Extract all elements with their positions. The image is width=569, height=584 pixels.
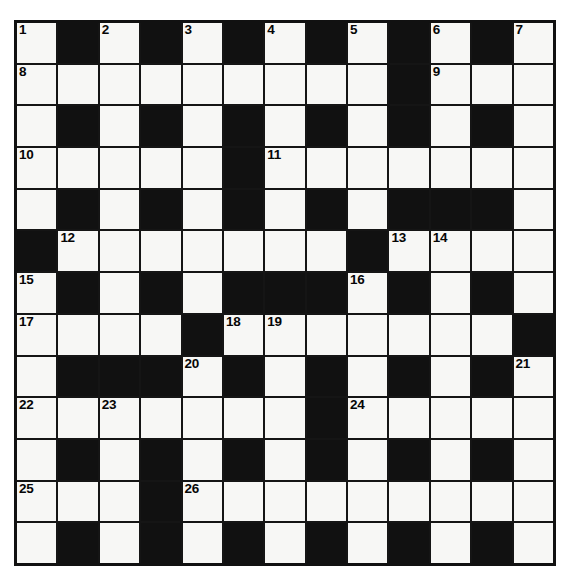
- open-cell[interactable]: 15: [17, 273, 56, 313]
- open-cell[interactable]: [100, 482, 139, 522]
- open-cell[interactable]: [389, 482, 428, 522]
- crossword-grid[interactable]: 1234567891011121314151617181920212223242…: [17, 23, 553, 563]
- open-cell[interactable]: [265, 398, 304, 438]
- open-cell[interactable]: [472, 231, 511, 271]
- open-cell[interactable]: [17, 357, 56, 397]
- open-cell[interactable]: [224, 398, 263, 438]
- open-cell[interactable]: [307, 148, 346, 188]
- open-cell[interactable]: [224, 482, 263, 522]
- open-cell[interactable]: [100, 440, 139, 480]
- open-cell[interactable]: [224, 65, 263, 105]
- open-cell[interactable]: [514, 106, 553, 146]
- open-cell[interactable]: 17: [17, 315, 56, 355]
- open-cell[interactable]: [431, 398, 470, 438]
- open-cell[interactable]: [389, 398, 428, 438]
- open-cell[interactable]: [514, 440, 553, 480]
- open-cell[interactable]: [307, 65, 346, 105]
- open-cell[interactable]: [224, 231, 263, 271]
- open-cell[interactable]: [17, 440, 56, 480]
- open-cell[interactable]: 5: [348, 23, 387, 63]
- open-cell[interactable]: 13: [389, 231, 428, 271]
- open-cell[interactable]: [100, 523, 139, 563]
- open-cell[interactable]: [472, 148, 511, 188]
- open-cell[interactable]: [431, 523, 470, 563]
- open-cell[interactable]: [183, 273, 222, 313]
- open-cell[interactable]: [472, 315, 511, 355]
- open-cell[interactable]: [141, 315, 180, 355]
- open-cell[interactable]: [17, 106, 56, 146]
- open-cell[interactable]: [100, 315, 139, 355]
- open-cell[interactable]: [265, 231, 304, 271]
- open-cell[interactable]: [431, 273, 470, 313]
- open-cell[interactable]: [431, 106, 470, 146]
- open-cell[interactable]: [348, 523, 387, 563]
- open-cell[interactable]: [183, 65, 222, 105]
- open-cell[interactable]: 25: [17, 482, 56, 522]
- open-cell[interactable]: 26: [183, 482, 222, 522]
- open-cell[interactable]: [141, 148, 180, 188]
- open-cell[interactable]: [514, 148, 553, 188]
- open-cell[interactable]: [472, 65, 511, 105]
- open-cell[interactable]: [472, 398, 511, 438]
- open-cell[interactable]: [100, 273, 139, 313]
- open-cell[interactable]: [17, 523, 56, 563]
- open-cell[interactable]: 20: [183, 357, 222, 397]
- open-cell[interactable]: 23: [100, 398, 139, 438]
- open-cell[interactable]: [307, 482, 346, 522]
- open-cell[interactable]: [389, 148, 428, 188]
- open-cell[interactable]: 2: [100, 23, 139, 63]
- open-cell[interactable]: 18: [224, 315, 263, 355]
- open-cell[interactable]: [431, 148, 470, 188]
- open-cell[interactable]: [389, 315, 428, 355]
- open-cell[interactable]: [514, 482, 553, 522]
- open-cell[interactable]: [514, 190, 553, 230]
- open-cell[interactable]: 22: [17, 398, 56, 438]
- open-cell[interactable]: [183, 190, 222, 230]
- open-cell[interactable]: [348, 148, 387, 188]
- open-cell[interactable]: [141, 398, 180, 438]
- open-cell[interactable]: 11: [265, 148, 304, 188]
- open-cell[interactable]: 19: [265, 315, 304, 355]
- open-cell[interactable]: [58, 398, 97, 438]
- open-cell[interactable]: [514, 273, 553, 313]
- open-cell[interactable]: [265, 523, 304, 563]
- open-cell[interactable]: 7: [514, 23, 553, 63]
- open-cell[interactable]: [514, 231, 553, 271]
- open-cell[interactable]: [514, 398, 553, 438]
- open-cell[interactable]: 4: [265, 23, 304, 63]
- open-cell[interactable]: [265, 440, 304, 480]
- open-cell[interactable]: 10: [17, 148, 56, 188]
- open-cell[interactable]: [348, 482, 387, 522]
- open-cell[interactable]: [141, 231, 180, 271]
- open-cell[interactable]: [183, 523, 222, 563]
- open-cell[interactable]: 9: [431, 65, 470, 105]
- open-cell[interactable]: [431, 357, 470, 397]
- open-cell[interactable]: 6: [431, 23, 470, 63]
- open-cell[interactable]: [348, 315, 387, 355]
- open-cell[interactable]: [58, 482, 97, 522]
- open-cell[interactable]: [348, 65, 387, 105]
- open-cell[interactable]: [472, 482, 511, 522]
- open-cell[interactable]: [265, 482, 304, 522]
- open-cell[interactable]: [58, 65, 97, 105]
- open-cell[interactable]: 3: [183, 23, 222, 63]
- open-cell[interactable]: [514, 523, 553, 563]
- open-cell[interactable]: [183, 398, 222, 438]
- open-cell[interactable]: [17, 190, 56, 230]
- open-cell[interactable]: [307, 315, 346, 355]
- open-cell[interactable]: 12: [58, 231, 97, 271]
- open-cell[interactable]: [265, 190, 304, 230]
- open-cell[interactable]: 16: [348, 273, 387, 313]
- open-cell[interactable]: [431, 482, 470, 522]
- open-cell[interactable]: 1: [17, 23, 56, 63]
- open-cell[interactable]: 21: [514, 357, 553, 397]
- open-cell[interactable]: [141, 65, 180, 105]
- open-cell[interactable]: [348, 357, 387, 397]
- open-cell[interactable]: [265, 106, 304, 146]
- open-cell[interactable]: [348, 440, 387, 480]
- open-cell[interactable]: [100, 148, 139, 188]
- open-cell[interactable]: [100, 190, 139, 230]
- open-cell[interactable]: [307, 231, 346, 271]
- open-cell[interactable]: [265, 65, 304, 105]
- open-cell[interactable]: [431, 315, 470, 355]
